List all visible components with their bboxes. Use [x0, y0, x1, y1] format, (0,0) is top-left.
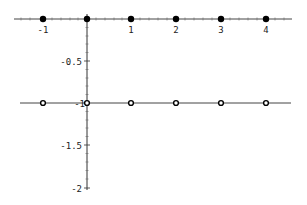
data-point — [128, 16, 134, 22]
data-point — [41, 101, 46, 106]
y-tick-label: -0.5 — [60, 57, 82, 67]
plot-canvas: -1 1 2 3 4 -0.5 -1 -1.5 -2 — [0, 0, 307, 205]
y-tick-labels: -0.5 -1 -1.5 -2 — [60, 57, 85, 194]
x-tick-label: 4 — [263, 25, 268, 35]
y-tick-label: -1 — [74, 99, 85, 109]
y-tick-label: -2 — [71, 184, 82, 194]
y-tick-label: -1.5 — [60, 141, 82, 151]
x-tick-labels: -1 1 2 3 4 — [38, 25, 269, 35]
data-point — [264, 101, 269, 106]
x-tick-label: -1 — [38, 25, 49, 35]
data-point — [40, 16, 46, 22]
data-point — [174, 101, 179, 106]
data-point — [173, 16, 179, 22]
x-tick-label: 3 — [218, 25, 223, 35]
data-point — [218, 16, 224, 22]
x-tick-label: 1 — [128, 25, 133, 35]
data-point — [263, 16, 269, 22]
data-point — [84, 16, 90, 22]
x-tick-label: 2 — [173, 25, 178, 35]
data-point — [219, 101, 224, 106]
data-point — [129, 101, 134, 106]
data-point — [85, 101, 90, 106]
